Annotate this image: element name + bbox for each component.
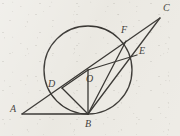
segment-b-d [62,88,88,114]
point-label-f: F [121,25,127,35]
geometry-diagram [0,0,180,136]
point-label-e: E [139,46,145,56]
point-label-d: D [48,79,55,89]
point-label-b: B [85,119,91,129]
point-label-a: A [10,104,16,114]
point-label-c: C [163,3,170,13]
point-label-o: O [86,74,93,84]
segment-b-f [88,41,126,114]
segment-d-o [62,70,88,88]
geometry-figure-page: A B C D E F O [0,0,180,136]
segment-a-c [22,18,160,114]
